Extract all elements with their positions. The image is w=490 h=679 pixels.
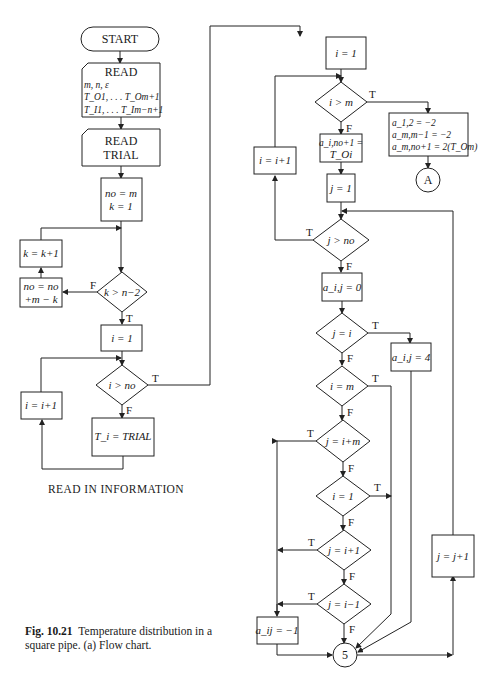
svg-text:j > no: j > no xyxy=(326,234,355,246)
svg-text:F: F xyxy=(349,570,355,582)
svg-text:T_i = TRIAL: T_i = TRIAL xyxy=(95,430,152,442)
svg-text:A: A xyxy=(424,173,433,187)
init-k: k = 1 xyxy=(109,200,132,212)
svg-text:i = i+1: i = i+1 xyxy=(259,154,291,166)
svg-text:i = 1: i = 1 xyxy=(332,490,353,502)
svg-text:T: T xyxy=(308,590,315,602)
svg-text:F: F xyxy=(348,516,354,528)
svg-text:j = i+1: j = i+1 xyxy=(326,544,360,556)
svg-text:a_1,2 = −2: a_1,2 = −2 xyxy=(392,118,436,128)
decision-j-eq-i: j = i xyxy=(316,313,368,353)
read-trial-line2: TRIAL xyxy=(103,148,138,162)
svg-text:F: F xyxy=(347,352,353,364)
decision-j-eq-i-plus-1: j = i+1 xyxy=(317,530,371,570)
svg-text:a_ij = −1: a_ij = −1 xyxy=(256,624,299,636)
figure-caption: Fig. 10.21 Temperature distribution in a… xyxy=(25,624,230,652)
svg-text:j = i−1: j = i−1 xyxy=(326,598,360,610)
svg-text:j = i+m: j = i+m xyxy=(324,435,360,447)
i-init-block-right: i = 1 xyxy=(326,37,366,69)
svg-text:j = j+1: j = j+1 xyxy=(435,550,469,562)
svg-text:a_i,j = 0: a_i,j = 0 xyxy=(323,281,362,293)
svg-text:i = 1: i = 1 xyxy=(111,332,132,344)
boundary-assignment-block: a_1,2 = −2 a_m,m−1 = −2 a_m,no+1 = 2(T_O… xyxy=(389,113,477,156)
svg-text:T: T xyxy=(307,427,314,439)
svg-text:T: T xyxy=(374,481,381,493)
decision-i-gt-no: i > no xyxy=(96,365,148,405)
section-title: READ IN INFORMATION xyxy=(48,483,184,495)
svg-text:i = m: i = m xyxy=(330,380,354,392)
svg-text:T: T xyxy=(308,536,315,548)
start-label: START xyxy=(102,32,139,46)
svg-text:F: F xyxy=(346,260,352,272)
svg-text:i = i+1: i = i+1 xyxy=(25,399,57,411)
read-parameters-block: READ m, n, ε T_O1, . . . T_Om+1 T_I1, . … xyxy=(82,63,163,117)
svg-text:i = 1: i = 1 xyxy=(335,47,356,59)
decision-j-eq-i-plus-m: j = i+m xyxy=(316,420,370,462)
svg-text:i > no: i > no xyxy=(109,379,136,391)
svg-text:a_i,j = 4: a_i,j = 4 xyxy=(392,351,431,363)
decision-i-eq-m: i = m xyxy=(316,366,368,406)
start-terminal: START xyxy=(81,27,159,51)
i-increment-block-left: i = i+1 xyxy=(21,392,62,419)
svg-text:T: T xyxy=(152,372,159,384)
svg-text:F: F xyxy=(349,623,355,635)
assign-zero-block: a_i,j = 0 xyxy=(322,273,362,301)
svg-text:F: F xyxy=(347,406,353,418)
init-no: no = m xyxy=(105,187,137,199)
svg-text:T: T xyxy=(369,88,376,100)
connector-5: 5 xyxy=(333,643,357,667)
j-increment-block: j = j+1 xyxy=(432,535,474,577)
svg-text:a_m,m−1 = −2: a_m,m−1 = −2 xyxy=(392,130,451,140)
decision-i-gt-m: i > m xyxy=(315,82,367,122)
svg-text:+m − k: +m − k xyxy=(24,293,58,305)
figure-number: Fig. 10.21 xyxy=(25,625,73,637)
read-trial-block: READ TRIAL xyxy=(82,129,160,166)
svg-text:i > m: i > m xyxy=(329,96,353,108)
k-increment-block: k = k+1 xyxy=(20,240,62,267)
read-trial-line1: READ xyxy=(105,134,138,148)
assign-a-no-block: a_i,no+1 = T_Oi xyxy=(319,134,363,162)
svg-text:j = i: j = i xyxy=(330,327,351,339)
svg-text:a_i,no+1 =: a_i,no+1 = xyxy=(319,138,363,148)
decision-j-eq-i-minus-1: j = i−1 xyxy=(317,584,371,624)
svg-text:j = 1: j = 1 xyxy=(328,182,351,194)
false-label: F xyxy=(90,279,96,291)
svg-text:T: T xyxy=(306,226,313,238)
svg-text:T: T xyxy=(372,372,379,384)
i-init-block-left: i = 1 xyxy=(101,325,142,351)
svg-text:no = no: no = no xyxy=(24,280,59,292)
assign-four-block: a_i,j = 4 xyxy=(391,343,431,371)
true-label: T xyxy=(126,312,133,324)
svg-text:k > n−2: k > n−2 xyxy=(104,286,141,298)
svg-text:T: T xyxy=(372,319,379,331)
read-inner-temps: T_I1, . . . T_Im−n+1 xyxy=(84,105,163,115)
connector-a: A xyxy=(416,168,440,192)
svg-text:5: 5 xyxy=(342,648,348,662)
init-no-k-block: no = m k = 1 xyxy=(101,178,142,221)
svg-text:T_Oi: T_Oi xyxy=(330,148,353,160)
i-increment-block-right: i = i+1 xyxy=(254,147,296,174)
no-update-block: no = no +m − k xyxy=(20,278,62,307)
assign-trial-block: T_i = TRIAL xyxy=(92,418,154,456)
read-outer-temps: T_O1, . . . T_Om+1 xyxy=(84,92,160,102)
decision-k-gt-n-minus-2: k > n−2 xyxy=(97,272,147,312)
j-init-block: j = 1 xyxy=(327,174,355,202)
svg-text:F: F xyxy=(346,122,352,134)
decision-i-eq-1: i = 1 xyxy=(316,476,370,516)
read-vars: m, n, ε xyxy=(84,80,109,90)
decision-j-gt-no: j > no xyxy=(313,219,369,261)
read-title: READ xyxy=(105,65,138,79)
svg-text:F: F xyxy=(126,404,132,416)
svg-text:a_m,no+1 = 2(T_Om): a_m,no+1 = 2(T_Om) xyxy=(392,142,477,153)
svg-text:k = k+1: k = k+1 xyxy=(23,247,59,259)
svg-text:F: F xyxy=(348,462,354,474)
assign-minus1-block: a_ij = −1 xyxy=(256,617,299,644)
